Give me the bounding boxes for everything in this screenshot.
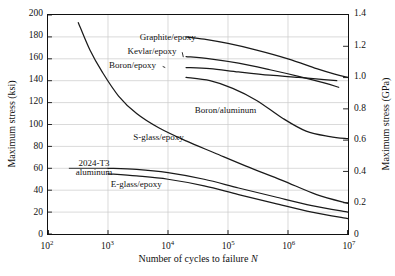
y-tick-left: 140 [29,76,43,86]
x-axis-symbol: N [251,253,258,264]
x-tick: 105 [222,240,235,252]
y-tick-left: 120 [29,98,43,108]
y-tick-right: 1.4 [354,9,366,19]
y-tick-right: 0.4 [354,167,366,177]
y-tick-left: 60 [34,164,44,174]
curve-label-1: Kevlar/epoxy [128,47,177,56]
curve-label-6: E-glass/epoxy [111,181,162,190]
y-tick-right: 1.0 [354,72,366,82]
plot-area [47,14,349,235]
y-tick-left: 20 [34,208,44,218]
y-tick-right: 1.2 [354,41,366,51]
y-tick-left: 40 [34,186,44,196]
y-tick-left: 0 [38,230,43,240]
x-axis-title-text: Number of cycles to failure N [138,253,257,264]
y-tick-left: 180 [29,31,43,41]
curve-label-2: Boron/epoxy [109,61,156,70]
curve-2 [186,68,337,81]
y-tick-left: 80 [34,142,44,152]
y-tick-right: 0.2 [354,199,366,209]
curve-1 [186,57,339,88]
x-axis-title: Number of cycles to failure N [138,253,257,264]
curve-label-5: 2024-T3aluminum [76,159,113,178]
y-tick-right: 0.6 [354,136,366,146]
y-axis-title-left: Maximum stress (ksi) [6,80,17,167]
x-tick: 106 [282,240,295,252]
x-tick: 102 [41,240,54,252]
curve-0 [186,37,348,78]
y-tick-left: 100 [29,120,43,130]
x-tick: 107 [343,240,356,252]
curve-layer [48,15,348,234]
curve-label-3: Boron/aluminum [195,107,257,116]
leader-line-1 [163,66,166,67]
x-tick: 104 [161,240,174,252]
y-tick-left: 160 [29,53,43,63]
x-tick: 103 [101,240,114,252]
curve-label-0: Graphite/epoxy [140,34,196,43]
y-axis-title-right: Maximum stress (GPa) [380,78,391,171]
y-tick-left: 200 [29,9,43,19]
curve-label-4: S-glass/epoxy [133,133,184,142]
leader-line-0 [182,52,183,57]
y-tick-right: 0.8 [354,104,366,114]
curve-5 [108,168,348,212]
fatigue-sn-chart: Maximum stress (ksi) Maximum stress (GPa… [0,0,395,276]
